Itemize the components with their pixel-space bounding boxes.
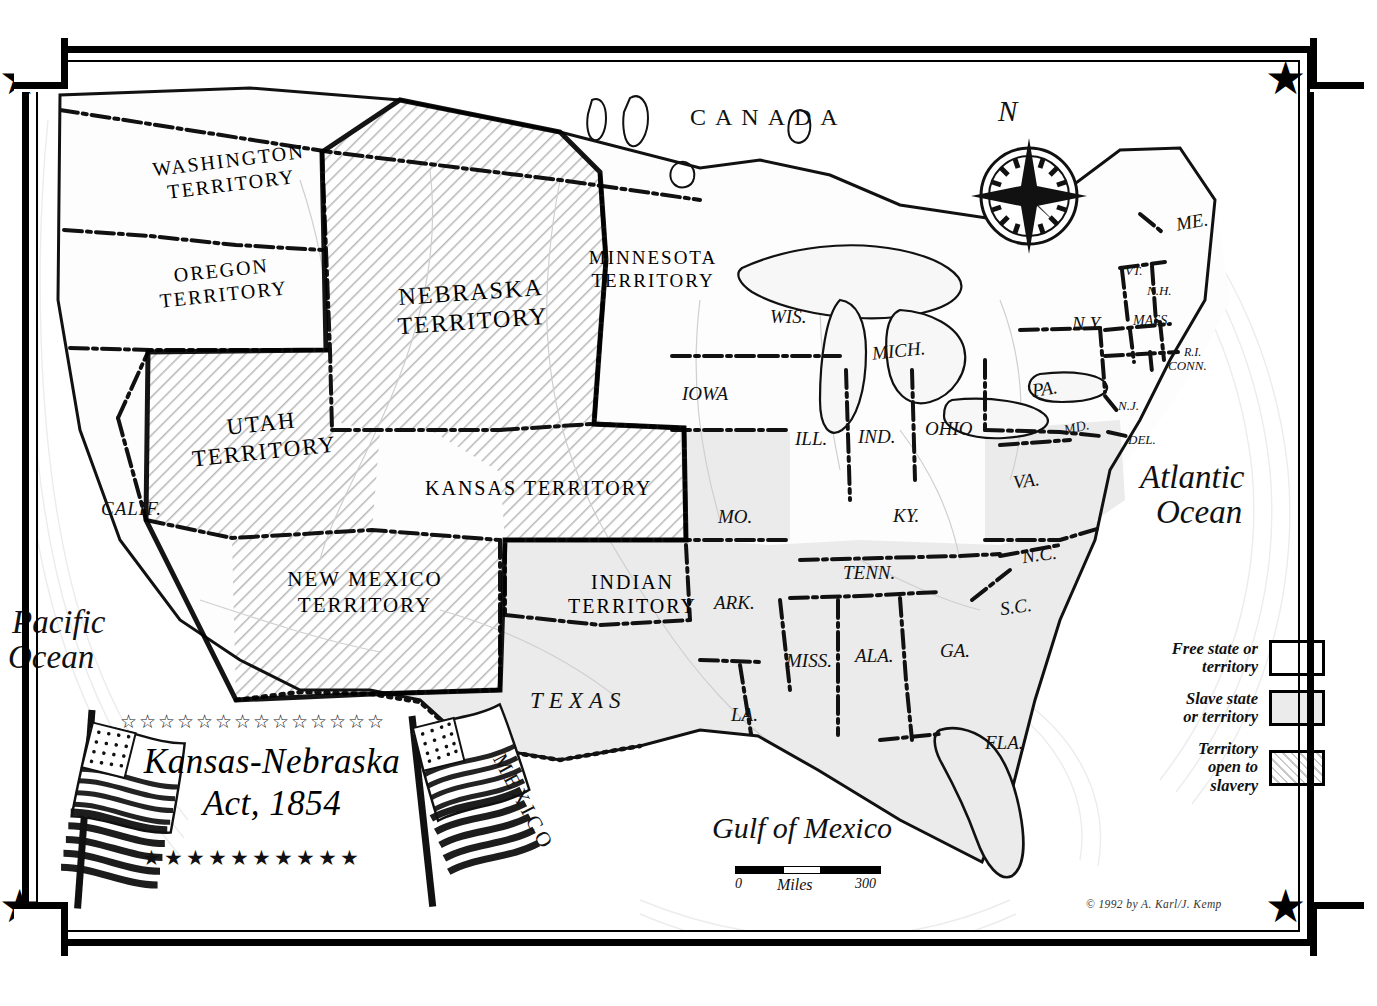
corner-star-bottom-right-icon: ★ [1262,884,1308,930]
frame-notch-bottom-left [14,902,68,956]
map-frame-inner [36,60,1300,932]
frame-notch-bottom-right [1310,902,1364,956]
map-page: CANADA MEXICO WASHINGTON TERRITORY OREGO… [0,0,1377,1006]
frame-notch-top-right [1310,38,1364,92]
frame-notch-top-left [14,38,68,92]
corner-star-top-right-icon: ★ [1262,56,1308,102]
